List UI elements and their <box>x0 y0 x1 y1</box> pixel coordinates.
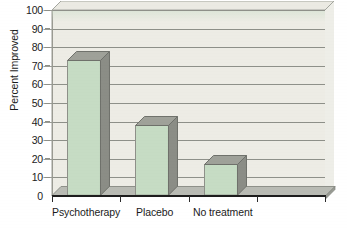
x-axis-category-label: Psychotherapy <box>52 205 120 219</box>
bar-front-face <box>136 126 169 196</box>
y-axis-tick: 10 <box>14 171 50 183</box>
bar-chart: 1009080706050403020100 Percent Improved … <box>0 0 347 228</box>
x-axis-ticks <box>0 196 347 204</box>
bar-3d-shape <box>135 116 178 196</box>
y-axis-title: Percent Improved <box>7 5 21 135</box>
bar[interactable] <box>135 116 178 196</box>
y-axis-tick-mark <box>45 84 50 85</box>
y-axis-tick-mark <box>45 121 50 122</box>
y-axis-tick-label: 20 <box>32 153 43 165</box>
y-axis-tick-label: 0 <box>37 190 43 202</box>
bar[interactable] <box>67 51 110 196</box>
x-axis-tick-mark <box>120 196 121 202</box>
bar-front-face <box>68 61 101 196</box>
y-axis-tick-label: 50 <box>32 97 43 109</box>
bar[interactable] <box>204 155 247 196</box>
bar-3d-shape <box>67 51 110 196</box>
bar-side-face <box>168 117 177 196</box>
y-axis-tick-label: 10 <box>32 171 43 183</box>
y-axis-tick-mark <box>45 158 50 159</box>
x-axis-tick-mark <box>52 196 53 202</box>
y-axis-tick-label: 60 <box>32 78 43 90</box>
y-axis-tick-label: 70 <box>32 60 43 72</box>
y-axis-tick-label: 100 <box>26 4 43 16</box>
x-axis-category-label: Placebo <box>136 205 173 219</box>
x-axis-tick-mark <box>325 196 326 202</box>
y-axis-tick-label: 90 <box>32 23 43 35</box>
x-axis-tick-mark <box>257 196 258 202</box>
y-axis-tick-mark <box>45 28 50 29</box>
bar-front-face <box>205 165 238 196</box>
y-axis-tick-mark <box>45 47 50 48</box>
x-axis-category-label: No treatment <box>193 205 253 219</box>
bars <box>0 0 347 228</box>
y-axis-tick-label: 40 <box>32 116 43 128</box>
y-axis-tick-mark <box>45 10 50 11</box>
bar-3d-shape <box>204 155 247 196</box>
y-axis-tick-mark <box>45 140 50 141</box>
x-axis-tick-mark <box>189 196 190 202</box>
y-axis-tick-label: 80 <box>32 41 43 53</box>
y-axis-tick: 0 <box>14 190 50 202</box>
x-axis-category-labels: PsychotherapyPlaceboNo treatment <box>0 205 347 221</box>
y-axis-tick-label: 30 <box>32 134 43 146</box>
y-axis-tick-mark <box>45 65 50 66</box>
y-axis-tick: 20 <box>14 153 50 165</box>
y-axis-tick: 30 <box>14 134 50 146</box>
y-axis-tick-mark <box>45 103 50 104</box>
y-axis-tick-mark <box>45 177 50 178</box>
bar-side-face <box>100 52 109 196</box>
